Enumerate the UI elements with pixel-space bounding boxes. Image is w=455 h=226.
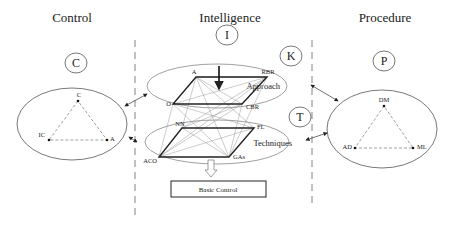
basic-control-box: Basic Control xyxy=(171,181,266,197)
control-circle: C xyxy=(65,53,87,73)
intelligence-circle: I xyxy=(216,25,238,45)
node-fl: FL xyxy=(257,123,265,130)
svg-text:C: C xyxy=(72,56,80,70)
procedure-title: Procedure xyxy=(359,10,412,25)
control-techniques-link xyxy=(129,137,137,142)
svg-text:T: T xyxy=(296,110,304,124)
node-o: O xyxy=(166,100,171,107)
intelligence-title: Intelligence xyxy=(199,10,261,25)
node-ad: AD xyxy=(343,143,353,150)
node-rbr: RBR xyxy=(261,68,275,75)
svg-text:P: P xyxy=(381,54,388,68)
approach-procedure-link xyxy=(311,85,338,101)
node-cbr: CBR xyxy=(246,103,260,110)
control-approach-link xyxy=(125,94,147,106)
output-arrow xyxy=(205,160,217,177)
t-circle: T xyxy=(289,107,311,127)
control-title: Control xyxy=(52,10,92,25)
techniques-parallelogram: NN FL ACO GAs xyxy=(143,120,264,164)
svg-text:K: K xyxy=(287,49,296,63)
node-a: A xyxy=(110,135,115,142)
node-ml: ML xyxy=(417,143,427,150)
node-nn: NN xyxy=(175,120,185,127)
techniques-label: Techniques xyxy=(253,138,292,148)
node-ic: IC xyxy=(39,131,46,138)
node-approach-a: A xyxy=(192,68,197,75)
framework-diagram: Control Intelligence Procedure C I K T P… xyxy=(0,0,455,226)
svg-text:I: I xyxy=(225,28,229,42)
node-gas: GAs xyxy=(233,153,245,160)
node-aco: ACO xyxy=(143,157,157,164)
control-ellipse: C IC A xyxy=(17,88,127,160)
techniques-procedure-link xyxy=(306,133,327,140)
node-dm: DM xyxy=(379,96,390,103)
procedure-circle: P xyxy=(373,51,395,71)
interconnections xyxy=(159,77,267,157)
node-c: C xyxy=(77,91,81,98)
svg-text:Basic Control: Basic Control xyxy=(199,186,238,194)
procedure-ellipse: DM AD ML xyxy=(327,90,437,168)
k-circle: K xyxy=(280,46,302,66)
